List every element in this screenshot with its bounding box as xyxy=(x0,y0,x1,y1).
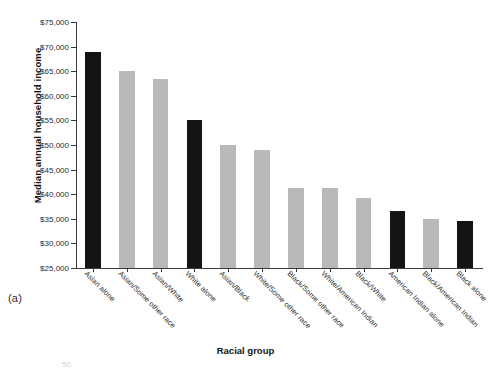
x-axis-tick xyxy=(161,268,162,272)
bar xyxy=(119,71,135,268)
x-axis-tick xyxy=(93,268,94,272)
y-axis-tick-label: $60,000 xyxy=(40,91,69,100)
figure-panel-a: (a) Median annual household income $25,0… xyxy=(0,0,491,370)
panel-label: (a) xyxy=(8,292,22,304)
x-axis-category-label: Asian/Black xyxy=(218,269,252,303)
x-axis-tick xyxy=(330,268,331,272)
y-axis-tick-label: $55,000 xyxy=(40,116,69,125)
bar xyxy=(220,145,236,268)
x-axis-category-label: Black/White xyxy=(353,269,388,304)
x-axis-title: Racial group xyxy=(0,345,491,356)
bar xyxy=(322,188,338,268)
x-axis-tick xyxy=(296,268,297,272)
x-axis-category-label: Black/American Indian xyxy=(421,269,481,329)
bar xyxy=(85,52,101,268)
y-axis-tick-label: $25,000 xyxy=(40,264,69,273)
y-axis-tick-label: $40,000 xyxy=(40,190,69,199)
bar xyxy=(288,188,304,268)
x-axis-category-label: Asian alone xyxy=(83,269,117,303)
bar-series xyxy=(76,22,482,268)
x-axis-line xyxy=(76,268,483,269)
x-axis-tick xyxy=(465,268,466,272)
next-panel-partial: 50 xyxy=(62,360,71,369)
x-axis-category-label: Black alone xyxy=(455,269,489,303)
bar xyxy=(390,211,406,268)
y-axis-tick-label: $30,000 xyxy=(40,239,69,248)
y-axis-tick-label: $50,000 xyxy=(40,141,69,150)
bar xyxy=(457,221,473,268)
x-axis-tick xyxy=(127,268,128,272)
plot-area: $25,000$30,000$35,000$40,000$45,000$50,0… xyxy=(76,22,482,268)
y-axis-tick xyxy=(71,268,76,269)
x-axis-tick xyxy=(228,268,229,272)
bar xyxy=(356,198,372,268)
x-axis-category-label: White alone xyxy=(184,269,219,304)
bar xyxy=(187,120,203,268)
x-axis-category-label: Asian/Some other race xyxy=(116,269,177,330)
x-axis-tick xyxy=(194,268,195,272)
bar xyxy=(423,219,439,268)
x-axis-category-label: White/Some other race xyxy=(252,269,313,330)
x-axis-category-label: Asian/White xyxy=(150,269,185,304)
x-axis-category-label: American Indian alone xyxy=(387,269,447,329)
x-axis-category-label: White/American Indian xyxy=(319,269,379,329)
y-axis-tick-label: $45,000 xyxy=(40,165,69,174)
y-axis-tick-label: $35,000 xyxy=(40,214,69,223)
x-axis-tick xyxy=(431,268,432,272)
x-axis-tick xyxy=(262,268,263,272)
bar xyxy=(254,150,270,268)
y-axis-tick-label: $75,000 xyxy=(40,18,69,27)
y-axis-tick-label: $65,000 xyxy=(40,67,69,76)
x-axis-tick xyxy=(364,268,365,272)
y-axis-tick-label: $70,000 xyxy=(40,42,69,51)
x-axis-category-label: Black/Some other race xyxy=(286,269,347,330)
bar xyxy=(153,79,169,268)
x-axis-tick xyxy=(397,268,398,272)
